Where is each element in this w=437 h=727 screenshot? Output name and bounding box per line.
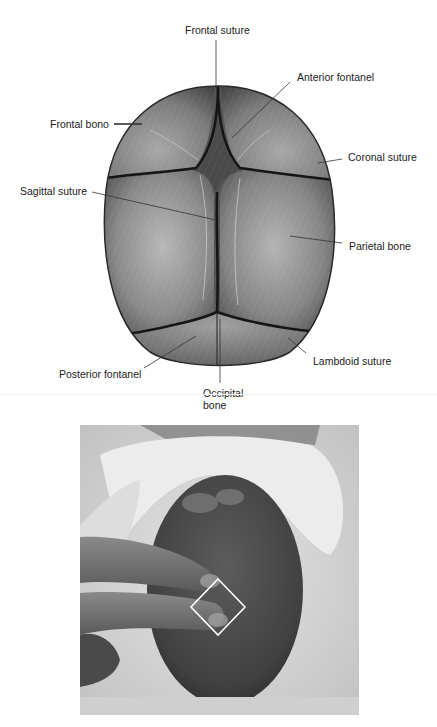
infant-head xyxy=(147,475,303,705)
figure: Frontal suture Anterior fontanel Frontal… xyxy=(0,0,437,727)
label-anterior-fontanel: Anterior fontanel xyxy=(297,71,374,83)
label-frontal-bone: Frontal bono xyxy=(50,118,109,130)
label-occipital-line2: bone xyxy=(203,399,243,411)
skull-diagram xyxy=(0,0,437,400)
newborn-photo xyxy=(80,425,359,715)
divider xyxy=(0,394,437,395)
photo-illustration xyxy=(80,425,359,715)
label-coronal-suture: Coronal suture xyxy=(348,151,417,163)
label-lambdoid-suture: Lambdoid suture xyxy=(313,355,391,367)
label-posterior-fontanel: Posterior fontanel xyxy=(59,368,141,380)
label-parietal-bone: Parietal bone xyxy=(349,240,411,252)
label-occipital-bone: Occipital bone xyxy=(203,387,243,411)
label-sagittal-suture: Sagittal suture xyxy=(20,185,87,197)
label-occipital-line1: Occipital xyxy=(203,387,243,399)
label-frontal-suture: Frontal suture xyxy=(185,24,250,36)
